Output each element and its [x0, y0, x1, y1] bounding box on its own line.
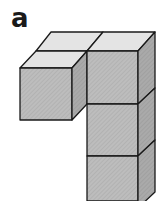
- front-face-column-top: [87, 51, 138, 104]
- front-face-left-cube: [20, 68, 72, 120]
- front-face-column-bottom: [87, 156, 138, 201]
- front-face-column-middle: [87, 104, 138, 156]
- cube-structure-diagram: [0, 0, 166, 201]
